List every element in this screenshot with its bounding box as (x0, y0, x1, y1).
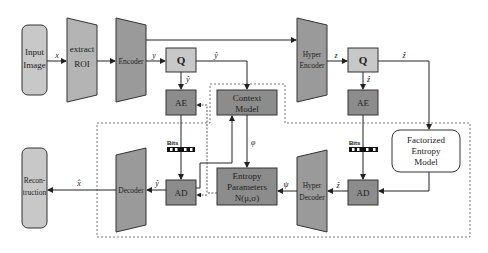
svg-text:Entropy: Entropy (412, 146, 441, 156)
ad-main-node: AD (166, 180, 196, 205)
svg-text:ŷ: ŷ (185, 75, 190, 84)
svg-text:Encoder: Encoder (300, 61, 325, 70)
svg-text:AE: AE (357, 98, 369, 108)
hyper-encoder-node: Hyper Encoder (297, 18, 327, 102)
hyper-decoder-node: Hyper Decoder (297, 150, 327, 232)
quantizer-main-node: Q (166, 48, 196, 72)
svg-text:Q: Q (177, 54, 186, 66)
svg-text:y: y (151, 51, 156, 60)
svg-text:Image: Image (23, 60, 46, 70)
ae-main-node: AE (166, 90, 196, 115)
svg-text:x: x (54, 51, 59, 60)
svg-text:Encoder: Encoder (119, 57, 144, 66)
svg-text:Model: Model (235, 104, 259, 114)
svg-text:ROI: ROI (74, 59, 90, 69)
svg-text:φ: φ (251, 138, 256, 147)
svg-text:Parameters: Parameters (227, 182, 267, 192)
svg-text:Decoder: Decoder (118, 186, 144, 195)
svg-text:ẑ: ẑ (401, 51, 406, 60)
encoder-node: Encoder (116, 18, 146, 102)
svg-text:x̂: x̂ (76, 179, 81, 188)
svg-text:Hyper: Hyper (303, 181, 322, 190)
svg-text:ŷ: ŷ (154, 179, 159, 188)
factorized-entropy-model-node: Factorized Entropy Model (392, 130, 460, 172)
svg-text:truction: truction (23, 188, 47, 197)
svg-text:N(μ,σ): N(μ,σ) (235, 193, 259, 203)
extract-roi-node: extract ROI (67, 18, 97, 102)
reconstruction-node: Recon- truction (22, 148, 47, 228)
svg-text:Entropy: Entropy (233, 171, 262, 181)
svg-text:Model: Model (414, 157, 438, 167)
svg-text:Bits: Bits (167, 140, 179, 146)
compression-architecture-diagram: Input Image x extract ROI Encoder y Q ŷ … (0, 0, 488, 253)
svg-text:z: z (333, 51, 338, 60)
svg-text:ẑ: ẑ (335, 181, 340, 190)
svg-text:ψ: ψ (284, 180, 290, 189)
svg-text:AD: AD (357, 188, 370, 198)
svg-text:Input: Input (25, 47, 44, 57)
quantizer-hyper-node: Q (348, 48, 378, 72)
svg-text:Recon-: Recon- (24, 176, 46, 185)
svg-text:Q: Q (359, 54, 368, 66)
svg-text:Bits: Bits (349, 140, 361, 146)
ad-hyper-node: AD (348, 180, 378, 205)
context-model-node: Context Model (217, 90, 277, 115)
svg-text:ẑ: ẑ (366, 75, 371, 84)
entropy-parameters-node: Entropy Parameters N(μ,σ) (217, 168, 277, 205)
svg-text:Context: Context (233, 93, 262, 103)
svg-text:Hyper: Hyper (303, 50, 322, 59)
input-image-node: Input Image (22, 25, 47, 95)
svg-text:ŷ: ŷ (213, 51, 218, 60)
svg-text:Factorized: Factorized (407, 135, 445, 145)
svg-text:extract: extract (70, 44, 95, 54)
svg-text:AE: AE (175, 98, 187, 108)
ae-hyper-node: AE (348, 90, 378, 115)
svg-text:AD: AD (175, 188, 188, 198)
decoder-node: Decoder (116, 148, 146, 232)
svg-text:Decoder: Decoder (299, 193, 325, 202)
